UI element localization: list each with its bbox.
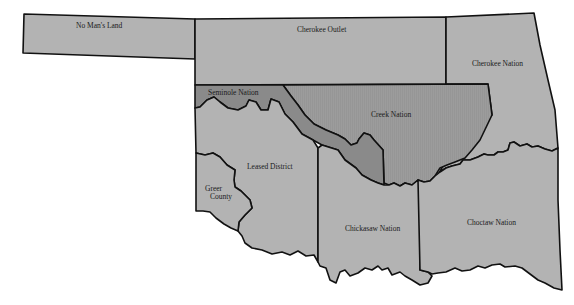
label-cherokee-outlet: Cherokee Outlet — [297, 25, 347, 34]
label-leased-district: Leased District — [247, 162, 294, 171]
label-cherokee-nation: Cherokee Nation — [472, 59, 523, 68]
label-creek-nation: Creek Nation — [371, 110, 411, 119]
label-seminole-nation: Seminole Nation — [208, 88, 259, 97]
label-greer-county-line2: County — [210, 192, 232, 201]
label-no-mans-land: No Man's Land — [76, 21, 123, 30]
label-chickasaw-nation: Chickasaw Nation — [345, 224, 400, 233]
oklahoma-territories-map: No Man's Land Cherokee Outlet Cherokee N… — [0, 0, 574, 305]
label-choctaw-nation: Choctaw Nation — [467, 218, 516, 227]
